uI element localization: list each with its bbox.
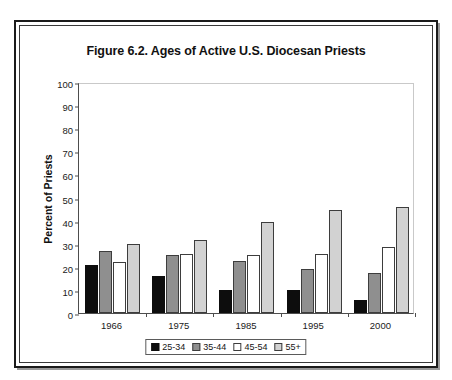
legend-swatch-45-54 (233, 343, 241, 351)
bar-35-44-1975 (166, 255, 179, 313)
plot-area: 0102030405060708090100 (78, 83, 414, 314)
bar-25-34-1995 (287, 290, 300, 313)
bar-group (79, 84, 146, 313)
bar-45-54-1995 (315, 254, 328, 313)
y-axis-tick-label: 40 (62, 217, 73, 228)
bar-35-44-2000 (368, 273, 381, 313)
figure-frame: Figure 6.2. Ages of Active U.S. Diocesan… (14, 20, 438, 368)
figure-frame-inner: Figure 6.2. Ages of Active U.S. Diocesan… (19, 25, 433, 363)
legend-item-25-34: 25-34 (151, 342, 185, 352)
legend-label: 55+ (285, 342, 300, 352)
bar-55+-1966 (127, 244, 140, 313)
y-axis-tick-mark (75, 315, 79, 316)
bar-55+-2000 (396, 207, 409, 313)
bar-group (281, 84, 348, 313)
legend-swatch-55+ (274, 343, 282, 351)
y-axis-tick-label: 0 (68, 310, 73, 321)
y-axis-tick-label: 30 (62, 240, 73, 251)
bar-45-54-1966 (113, 262, 126, 313)
bar-45-54-1985 (247, 255, 260, 313)
bar-group (213, 84, 280, 313)
legend-item-35-44: 35-44 (192, 342, 226, 352)
y-axis-tick-label: 80 (62, 125, 73, 136)
bar-group (348, 84, 415, 313)
x-axis-tick-label: 1975 (168, 320, 189, 331)
bar-35-44-1966 (99, 251, 112, 313)
bar-35-44-1985 (233, 261, 246, 313)
y-axis-tick-label: 90 (62, 102, 73, 113)
frame-shadow-bottom (17, 368, 440, 370)
y-axis-tick-label: 20 (62, 263, 73, 274)
x-axis-tick-mark (281, 313, 282, 317)
y-axis-title-label: Percent of Priests (42, 154, 54, 243)
x-axis-tick-label: 1985 (235, 320, 256, 331)
x-axis-tick-mark (415, 313, 416, 317)
y-axis-tick-label: 10 (62, 286, 73, 297)
bar-25-34-1966 (85, 265, 98, 314)
bar-group (146, 84, 213, 313)
bars-layer (79, 84, 413, 313)
x-axis-tick-mark (213, 313, 214, 317)
bar-35-44-1995 (301, 269, 314, 313)
bar-45-54-2000 (382, 247, 395, 313)
legend-swatch-35-44 (192, 343, 200, 351)
bar-25-34-1985 (219, 290, 232, 313)
frame-shadow-right (438, 23, 440, 369)
bar-55+-1975 (194, 240, 207, 313)
x-axis-tick-label: 1995 (303, 320, 324, 331)
legend-label: 25-34 (162, 342, 185, 352)
legend-swatch-25-34 (151, 343, 159, 351)
y-axis-tick-label: 60 (62, 171, 73, 182)
bar-55+-1995 (329, 210, 342, 313)
y-axis-tick-label: 70 (62, 148, 73, 159)
legend-label: 35-44 (203, 342, 226, 352)
bar-55+-1985 (261, 222, 274, 313)
chart-title: Figure 6.2. Ages of Active U.S. Diocesan… (20, 44, 432, 58)
bar-25-34-1975 (152, 276, 165, 313)
y-axis-tick-label: 100 (57, 79, 73, 90)
legend-label: 45-54 (244, 342, 267, 352)
bar-25-34-2000 (354, 300, 367, 313)
chart-legend: 25-3435-4445-5455+ (145, 339, 306, 355)
y-axis-tick-label: 50 (62, 194, 73, 205)
x-axis-tick-label: 1966 (101, 320, 122, 331)
legend-item-55+: 55+ (274, 342, 300, 352)
x-axis-tick-label: 2000 (370, 320, 391, 331)
x-axis-tick-mark (348, 313, 349, 317)
y-axis-title: Percent of Priests (40, 83, 56, 314)
x-axis-tick-mark (146, 313, 147, 317)
bar-45-54-1975 (180, 254, 193, 313)
legend-item-45-54: 45-54 (233, 342, 267, 352)
